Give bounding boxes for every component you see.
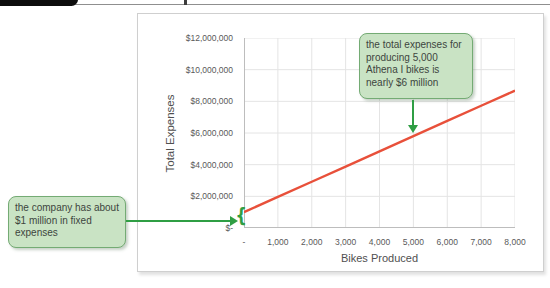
x-tick-label: 7,000 [470,237,491,247]
x-tick-label: 5,000 [403,237,424,247]
y-tick-label: $8,000,000 [138,96,233,106]
y-tick-label: $- [138,223,233,233]
curly-brace-icon: { [235,202,246,229]
callout-fixed-expenses: the company has about $1 million in fixe… [8,196,126,248]
x-tick-label: - [243,237,246,247]
x-tick-label: 2,000 [301,237,322,247]
x-tick-label: 6,000 [437,237,458,247]
figure-tab-remnant [0,0,78,6]
callout-fixed-expenses-text: the company has about $1 million in fixe… [15,202,119,238]
arrow-expenses-at-5000-line [412,100,414,125]
header-divider-line [0,4,550,5]
x-axis-title: Bikes Produced [244,252,515,264]
chart-container: Total Expenses Bikes Produced $12,000,00… [137,13,544,272]
x-tick-label: 1,000 [267,237,288,247]
y-tick-label: $12,000,000 [138,33,233,43]
cropped-text-remnant [184,0,187,5]
callout-expenses-at-5000-text: the total expenses for producing 5,000 A… [366,39,462,88]
arrow-down-icon [408,125,418,133]
y-tick-label: $2,000,000 [138,191,233,201]
x-tick-label: 4,000 [369,237,390,247]
y-tick-label: $6,000,000 [138,128,233,138]
x-tick-label: 8,000 [504,237,525,247]
y-tick-label: $4,000,000 [138,160,233,170]
callout-expenses-at-5000: the total expenses for producing 5,000 A… [359,33,473,99]
arrow-fixed-expenses-line [126,220,230,222]
x-tick-label: 3,000 [335,237,356,247]
y-tick-label: $10,000,000 [138,65,233,75]
figure-canvas: Total Expenses Bikes Produced $12,000,00… [0,0,550,288]
